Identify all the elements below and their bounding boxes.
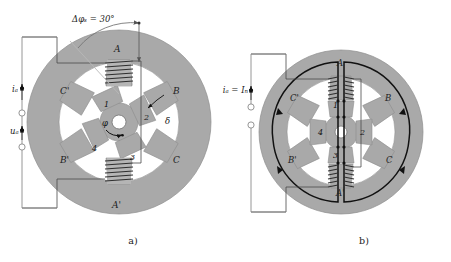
- rotor-pole-3-b: [328, 147, 354, 163]
- voltage-node: [20, 129, 24, 133]
- label-rotor-1-b: 1: [333, 101, 338, 110]
- label-rotor-3-b: 3: [333, 151, 338, 160]
- label-stator-Bp-b: B': [287, 155, 297, 165]
- terminal-minus-b[interactable]: [248, 122, 254, 128]
- label-current-ia: iₐ: [12, 84, 18, 94]
- label-stator-A-b: A: [336, 58, 343, 68]
- label-rotor-4: 4: [91, 144, 97, 153]
- label-stator-B: B: [172, 86, 180, 96]
- label-stator-B-b: B: [384, 93, 391, 103]
- label-stator-Ap-b: A': [335, 188, 344, 198]
- label-rotor-1: 1: [104, 100, 109, 109]
- label-stator-Cp: C': [60, 86, 69, 96]
- terminal-plus[interactable]: [19, 110, 25, 116]
- current-node-b: [249, 89, 253, 93]
- label-voltage-ua: uₐ: [10, 126, 19, 136]
- figure-srm-cross-sections: Δφₛ = 30° iₐ uₐ A B C A' B' C' 1 2 3 4 φ…: [0, 0, 451, 262]
- label-rotor-angle-phi: φ: [102, 118, 108, 128]
- coil-A-bottom: [105, 158, 133, 184]
- terminal-minus[interactable]: [19, 144, 25, 150]
- caption-b: b): [359, 235, 369, 246]
- label-rotor-2-b: 2: [359, 128, 365, 137]
- label-stator-C: C: [173, 155, 180, 165]
- label-rotor-4-b: 4: [317, 128, 323, 137]
- label-rotor-2: 2: [143, 113, 149, 122]
- rotor-angle-dot: [121, 134, 124, 137]
- label-current-ia-b: iₐ = Iₙ: [223, 85, 249, 95]
- caption-a: a): [128, 235, 137, 246]
- current-node: [20, 87, 24, 91]
- rotor-pole-1-b: [328, 101, 354, 117]
- figure-canvas: Δφₛ = 30° iₐ uₐ A B C A' B' C' 1 2 3 4 φ…: [0, 0, 451, 262]
- label-airgap-delta: δ: [165, 116, 170, 126]
- label-stator-C-b: C: [386, 155, 393, 165]
- stator-pole-Ap-b: [329, 164, 353, 188]
- angle-vertex-dot: [138, 22, 141, 25]
- label-rotor-3: 3: [130, 153, 135, 162]
- label-stator-Bp: B': [59, 155, 69, 165]
- label-stator-Ap: A': [111, 200, 121, 210]
- label-stator-A: A: [113, 44, 121, 54]
- stator-pole-A-b: [329, 76, 353, 100]
- rotor-shaft-b: [335, 126, 347, 138]
- angle-label: Δφₛ = 30°: [71, 14, 115, 24]
- coil-A-top: [105, 60, 133, 86]
- terminal-plus-b[interactable]: [248, 104, 254, 110]
- panel-a-machine: [22, 30, 211, 214]
- label-stator-Cp-b: C': [290, 93, 299, 103]
